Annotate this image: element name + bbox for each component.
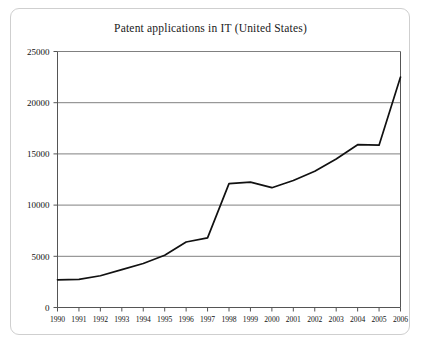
data-series-line: [58, 77, 401, 280]
x-axis: [58, 308, 401, 312]
x-tick-label: 1990: [50, 315, 65, 324]
x-tick-label: 2000: [264, 315, 279, 324]
x-tick-label: 2004: [350, 315, 365, 324]
x-tick-label: 2001: [286, 315, 301, 324]
x-tick-label: 1992: [93, 315, 108, 324]
x-tick-label: 1997: [200, 315, 215, 324]
x-tick-label: 1999: [243, 315, 258, 324]
y-axis: [54, 52, 58, 308]
y-tick-label: 5000: [32, 252, 51, 262]
x-tick-label: 2005: [371, 315, 386, 324]
x-tick-label: 1991: [71, 315, 86, 324]
x-tick-label: 1995: [157, 315, 172, 324]
x-tick-label: 2002: [307, 315, 322, 324]
series-polyline: [58, 77, 401, 280]
chart-page: Patent applications in IT (United States…: [0, 0, 421, 345]
y-tick-label: 10000: [27, 200, 50, 210]
x-tick-label: 2003: [329, 315, 344, 324]
y-tick-label: 20000: [27, 98, 50, 108]
y-tick-label: 25000: [27, 47, 50, 57]
y-tick-label: 15000: [27, 149, 50, 159]
x-tick-label: 2006: [393, 315, 408, 324]
x-tick-labels: 1990199119921993199419951996199719981999…: [50, 315, 408, 324]
x-tick-label: 1994: [136, 315, 151, 324]
y-tick-label: 0: [45, 303, 50, 313]
gridlines: [58, 52, 401, 257]
x-tick-label: 1998: [221, 315, 236, 324]
y-tick-labels: 0500010000150002000025000: [27, 47, 50, 313]
x-tick-label: 1993: [114, 315, 129, 324]
line-chart-plot: 0500010000150002000025000 19901991199219…: [0, 0, 421, 345]
x-tick-label: 1996: [179, 315, 194, 324]
